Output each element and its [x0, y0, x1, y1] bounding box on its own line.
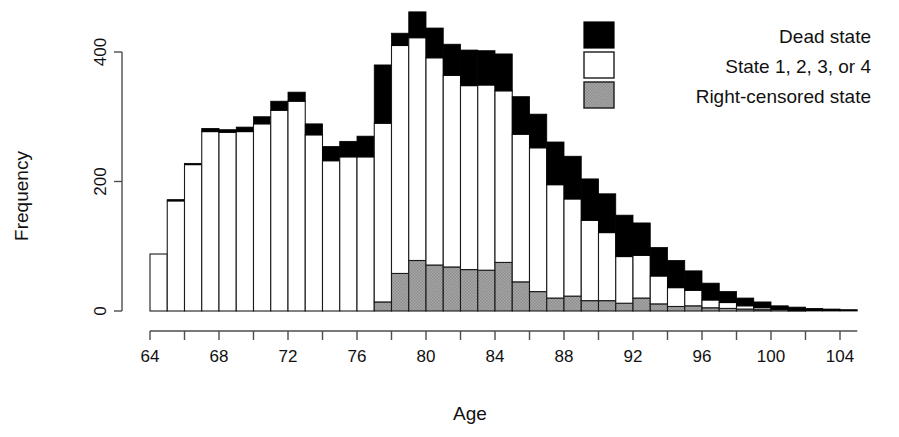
bar-segment-right-censored	[495, 262, 512, 311]
bar-segment-dead	[236, 127, 253, 132]
bar-segment-dead	[633, 223, 650, 255]
bar-segment-state-1-2-3-4	[461, 86, 478, 270]
bar-segment-dead	[202, 128, 219, 131]
bar-segment-right-censored	[564, 296, 581, 311]
bar-segment-state-1-2-3-4	[357, 157, 374, 311]
bar-segment-right-censored	[409, 261, 426, 312]
bar-segment-dead	[702, 283, 719, 300]
bar-segment-right-censored	[512, 282, 529, 311]
bar-segment-dead	[461, 50, 478, 86]
bar-segment-dead	[788, 307, 805, 310]
x-axis-tick-label: 84	[486, 347, 505, 366]
bar-segment-dead	[305, 124, 322, 135]
bar-segment-state-1-2-3-4	[219, 132, 236, 311]
bar-segment-dead	[426, 28, 443, 58]
bar-segment-state-1-2-3-4	[547, 185, 564, 298]
bar-segment-dead	[754, 302, 771, 308]
bar-segment-state-1-2-3-4	[495, 91, 512, 263]
bar-segment-dead	[581, 179, 598, 220]
y-axis-tick-label: 400	[91, 38, 110, 66]
stacked-histogram-chart: 0200400 646872768084889296100104 Frequen…	[0, 0, 899, 437]
bar-segment-dead	[547, 142, 564, 185]
bar-segment-dead	[599, 194, 616, 233]
bar-segment-right-censored	[616, 303, 633, 311]
bar-segment-dead	[823, 309, 840, 311]
legend-label: State 1, 2, 3, or 4	[725, 56, 871, 77]
legend-label: Dead state	[779, 26, 871, 47]
bar-segment-state-1-2-3-4	[650, 276, 667, 304]
bar-segment-dead	[719, 292, 736, 303]
bar-segment-dead	[271, 101, 288, 110]
bar-segment-dead	[288, 92, 305, 101]
bar-segment-dead	[771, 306, 788, 310]
bar-segment-right-censored	[392, 273, 409, 311]
bar-segment-dead	[219, 130, 236, 133]
bar-segment-state-1-2-3-4	[392, 46, 409, 274]
bar-segment-state-1-2-3-4	[374, 123, 391, 302]
x-axis-tick-label: 88	[555, 347, 574, 366]
x-axis-tick-label: 92	[624, 347, 643, 366]
bar-segment-state-1-2-3-4	[305, 135, 322, 311]
x-axis-tick-label: 104	[826, 347, 854, 366]
bar-segment-right-censored	[547, 298, 564, 311]
x-axis-tick-label: 72	[279, 347, 298, 366]
bar-segment-state-1-2-3-4	[737, 306, 754, 309]
bar-segment-right-censored	[650, 304, 667, 311]
x-axis-tick-label: 100	[757, 347, 785, 366]
bar-segment-right-censored	[633, 298, 650, 311]
bar-segment-dead	[616, 215, 633, 256]
bar-segment-right-censored	[599, 301, 616, 311]
bar-segment-state-1-2-3-4	[288, 101, 305, 311]
bar-segment-dead	[443, 44, 460, 75]
bar-segment-state-1-2-3-4	[443, 75, 460, 267]
bar-segment-right-censored	[426, 265, 443, 311]
bar-segment-state-1-2-3-4	[150, 254, 167, 311]
bar-segment-state-1-2-3-4	[340, 157, 357, 311]
y-axis-tick-label: 0	[91, 306, 110, 315]
bar-segment-right-censored	[461, 270, 478, 311]
bar-segment-dead	[564, 156, 581, 199]
bar-segment-dead	[737, 298, 754, 306]
x-axis: 646872768084889296100104	[141, 331, 858, 366]
bar-segment-right-censored	[443, 267, 460, 311]
bar-segment-state-1-2-3-4	[426, 58, 443, 265]
bar-segment-dead	[323, 147, 340, 161]
bar-segment-state-1-2-3-4	[685, 290, 702, 306]
bar-segment-dead	[254, 117, 271, 124]
bar-segment-dead	[806, 308, 823, 311]
bar-segment-dead	[167, 200, 184, 201]
chart-container: 0200400 646872768084889296100104 Frequen…	[0, 0, 899, 437]
bar-segment-state-1-2-3-4	[236, 132, 253, 311]
bar-segment-dead	[650, 248, 667, 276]
bar-segment-right-censored	[685, 306, 702, 311]
bar-segment-dead	[340, 141, 357, 157]
bar-segment-dead	[392, 33, 409, 45]
bar-segment-right-censored	[374, 302, 391, 311]
bar-segment-state-1-2-3-4	[167, 201, 184, 311]
bar-segment-dead	[530, 114, 547, 148]
bar-segment-state-1-2-3-4	[633, 255, 650, 298]
bar-segment-dead	[495, 54, 512, 91]
bar-segment-state-1-2-3-4	[323, 161, 340, 311]
bar-segment-state-1-2-3-4	[185, 165, 202, 311]
bar-segment-state-1-2-3-4	[616, 257, 633, 304]
bar-segment-state-1-2-3-4	[702, 300, 719, 308]
chart-legend: Dead stateState 1, 2, 3, or 4Right-censo…	[584, 22, 871, 108]
bar-segment-dead	[668, 261, 685, 288]
bar-segment-dead	[409, 12, 426, 38]
x-axis-tick-label: 64	[141, 347, 160, 366]
bar-segment-dead	[185, 163, 202, 164]
bar-segment-right-censored	[530, 292, 547, 311]
bar-segment-state-1-2-3-4	[668, 288, 685, 307]
legend-swatch-right-censored	[584, 82, 614, 108]
bar-segment-state-1-2-3-4	[202, 132, 219, 311]
y-axis-title: Frequency	[11, 151, 32, 241]
bar-segment-state-1-2-3-4	[254, 124, 271, 311]
x-axis-tick-label: 80	[417, 347, 436, 366]
bar-segment-dead	[374, 65, 391, 123]
bar-segment-state-1-2-3-4	[478, 85, 495, 270]
y-axis-tick-label: 200	[91, 167, 110, 195]
bar-segment-state-1-2-3-4	[530, 148, 547, 292]
bar-segment-state-1-2-3-4	[409, 38, 426, 261]
x-axis-tick-label: 68	[210, 347, 229, 366]
